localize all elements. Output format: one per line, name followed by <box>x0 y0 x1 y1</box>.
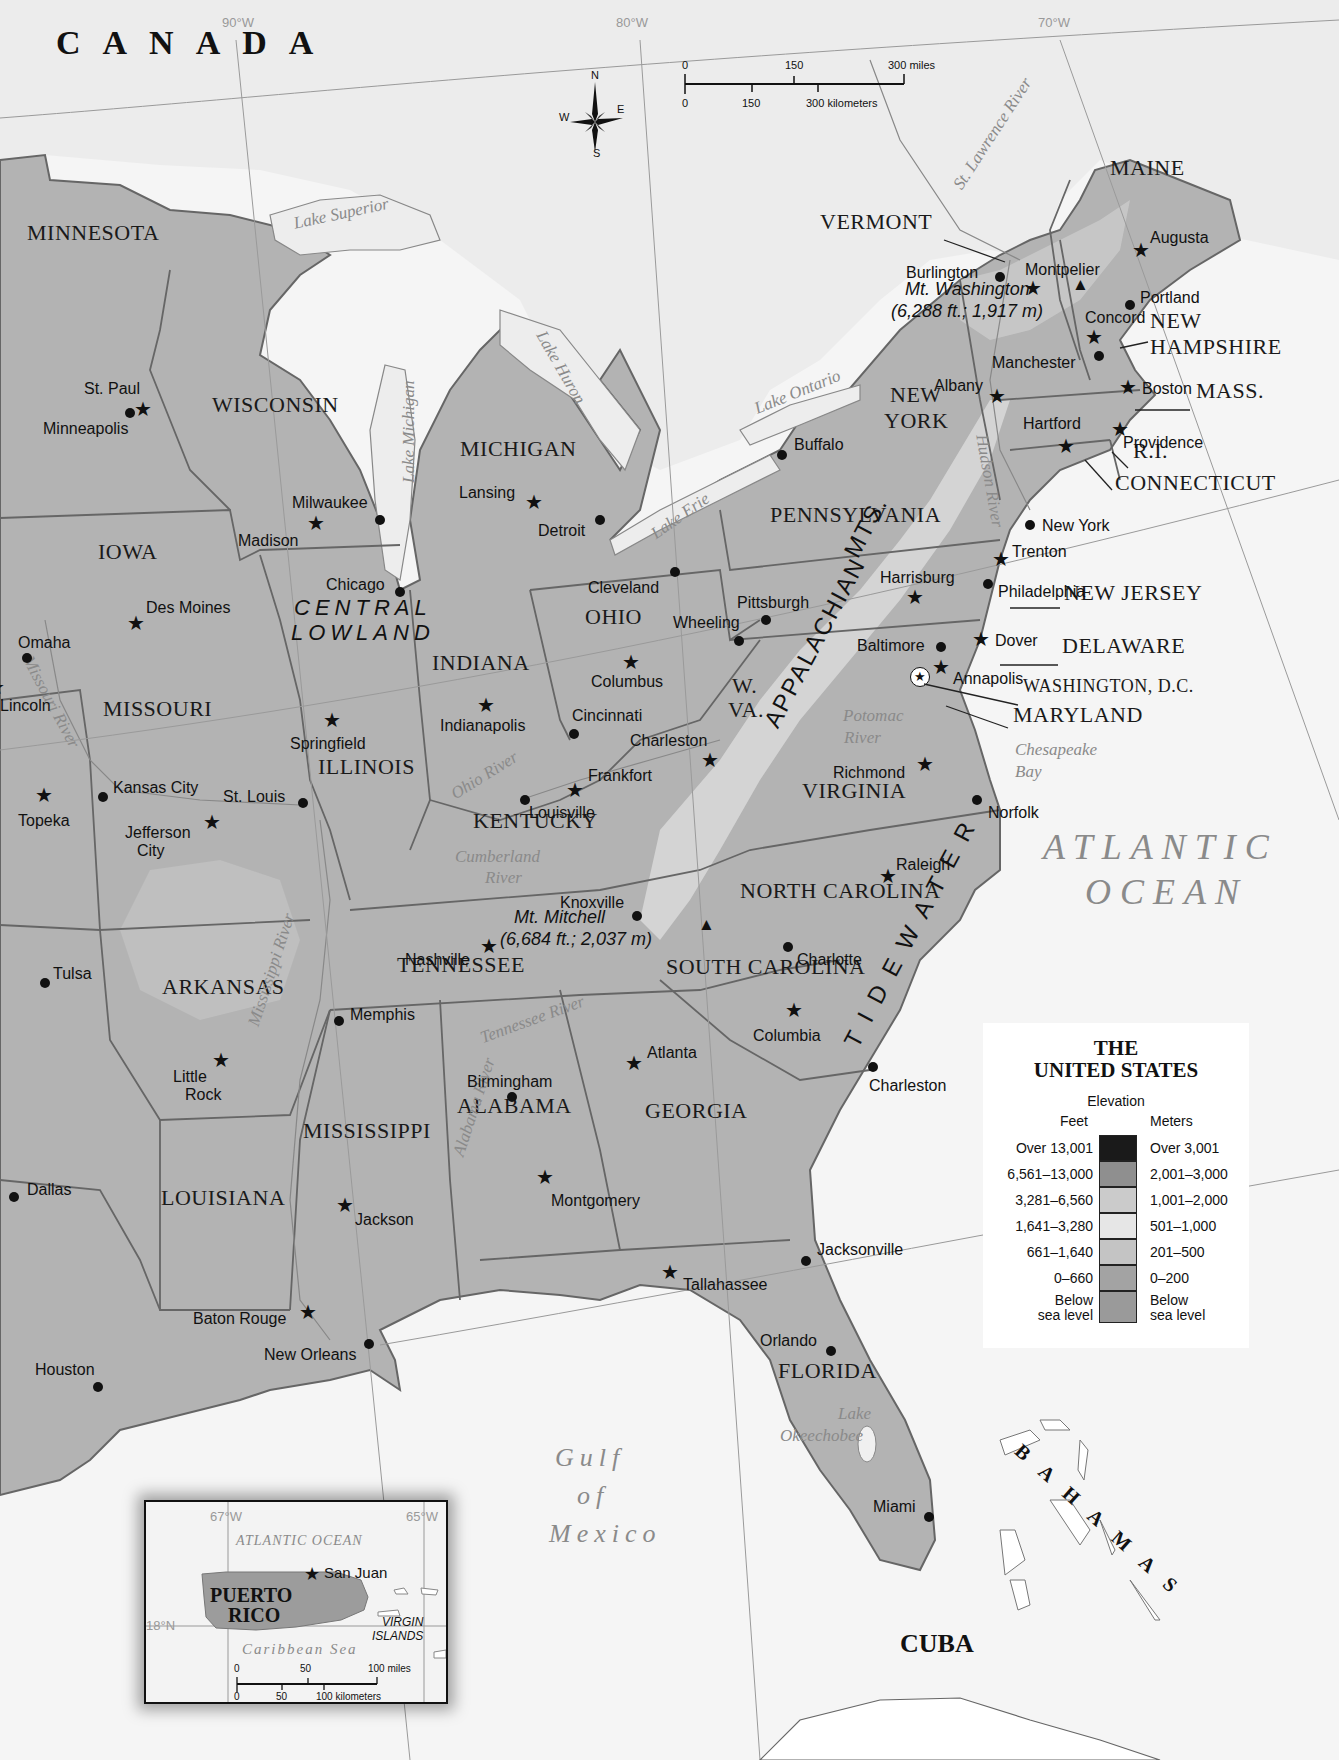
city-label-providence: Providence <box>1123 435 1203 451</box>
city-dot-icon <box>777 450 787 460</box>
water-label-okeechobee: Okeechobee <box>780 1427 863 1444</box>
city-label-jacksonville: Jacksonville <box>817 1242 903 1258</box>
inset-scale-km-50: 50 <box>276 1692 287 1702</box>
city-label-jackson: Jackson <box>355 1212 414 1228</box>
state-capital-star-icon: ★ <box>212 1050 230 1070</box>
region-label-lowland: LOWLAND <box>291 622 435 644</box>
state-capital-star-icon: ★ <box>307 513 325 533</box>
city-label-dover: Dover <box>995 633 1038 649</box>
city-dot-icon <box>1025 520 1035 530</box>
state-capital-star-icon: ★ <box>35 785 53 805</box>
state-capital-star-icon: ★ <box>480 936 498 956</box>
state-capital-star-icon: ★ <box>323 710 341 730</box>
legend-feet-header: Feet <box>1060 1113 1088 1129</box>
state-capital-star-icon: ★ <box>1057 436 1075 456</box>
state-label-w: W. <box>732 675 757 697</box>
city-label-st-louis: St. Louis <box>223 789 285 805</box>
legend-row: 1,641–3,280501–1,000 <box>983 1213 1249 1239</box>
legend-subtitle: Elevation <box>983 1093 1249 1109</box>
city-label-jefferson-city-line1: Jefferson <box>125 825 191 841</box>
city-label-manchester: Manchester <box>992 355 1076 371</box>
water-label-lake: Lake <box>838 1405 871 1422</box>
inset-atlantic-label: ATLANTIC OCEAN <box>236 1534 363 1548</box>
city-label-tallahassee: Tallahassee <box>683 1277 768 1293</box>
city-label-jefferson-city-line2: City <box>137 843 165 859</box>
legend-feet-value: 3,281–6,560 <box>1015 1192 1093 1208</box>
state-label-louisiana: LOUISIANA <box>161 1187 285 1209</box>
inset-virgin-islands-line1: VIRGIN <box>382 1616 423 1628</box>
mountain-peak-icon: ▲ <box>1072 276 1089 293</box>
legend-color-swatch <box>1099 1161 1137 1187</box>
legend-feet-value: 6,561–13,000 <box>1007 1166 1093 1182</box>
mountain-label-mt-washington: Mt. Washington <box>905 280 1030 298</box>
state-label-maine: MAINE <box>1110 157 1185 179</box>
city-dot-icon <box>801 1256 811 1266</box>
state-label-wisconsin: WISCONSIN <box>212 394 339 416</box>
city-label-montgomery: Montgomery <box>551 1193 640 1209</box>
state-capital-star-icon: ★ <box>299 1302 317 1322</box>
inset-caribbean-label: Caribbean Sea <box>242 1642 358 1657</box>
compass-e: E <box>617 104 624 115</box>
scale-miles-0: 0 <box>682 60 688 71</box>
city-label-concord: Concord <box>1085 310 1145 326</box>
region-label-central: CENTRAL <box>294 597 432 619</box>
city-label-frankfort: Frankfort <box>588 768 652 784</box>
city-label-norfolk: Norfolk <box>988 805 1039 821</box>
city-label-st-paul: St. Paul <box>84 381 140 397</box>
inset-scale-mi-100: 100 miles <box>368 1664 411 1674</box>
compass-n: N <box>591 70 599 81</box>
city-label-cincinnati: Cincinnati <box>572 708 642 724</box>
inset-scale-km-0: 0 <box>234 1692 240 1702</box>
city-label-boston: Boston <box>1142 381 1192 397</box>
state-capital-star-icon: ★ <box>879 866 897 886</box>
city-label-dallas: Dallas <box>27 1182 71 1198</box>
state-label-hampshire: HAMPSHIRE <box>1150 336 1282 358</box>
city-dot-icon <box>375 515 385 525</box>
legend-feet-value: 0–660 <box>1054 1270 1093 1286</box>
state-capital-star-icon: ★ <box>701 750 719 770</box>
state-capital-star-icon: ★ <box>1132 240 1150 260</box>
state-label-washington-d-c: WASHINGTON, D.C. <box>1023 677 1194 695</box>
city-dot-icon <box>40 978 50 988</box>
city-dot-icon <box>9 1192 19 1202</box>
city-dot-icon <box>670 567 680 577</box>
city-dot-icon <box>364 1339 374 1349</box>
ocean-label-atlantic: ATLANTIC <box>1043 829 1278 865</box>
city-label-portland: Portland <box>1140 290 1200 306</box>
compass-s: S <box>593 148 600 159</box>
state-capital-star-icon: ★ <box>203 812 221 832</box>
country-label-cuba: CUBA <box>900 1631 974 1657</box>
state-label-york: YORK <box>884 410 948 432</box>
city-label-harrisburg: Harrisburg <box>880 570 955 586</box>
city-dot-icon <box>98 792 108 802</box>
city-label-orlando: Orlando <box>760 1333 817 1349</box>
country-label-canada: CANADA <box>56 26 335 60</box>
state-label-north-carolina: NORTH CAROLINA <box>740 880 941 902</box>
city-label-kansas-city: Kansas City <box>113 780 198 796</box>
inset-lon-65: 65°W <box>406 1510 438 1523</box>
state-label-mass: MASS. <box>1196 380 1264 402</box>
city-label-birmingham: Birmingham <box>467 1074 552 1090</box>
water-label-bay: Bay <box>1015 763 1041 780</box>
city-label-charlotte: Charlotte <box>797 952 862 968</box>
legend-meters-value: 2,001–3,000 <box>1150 1166 1228 1182</box>
state-label-ohio: OHIO <box>585 606 642 628</box>
graticule-label-70-w: 70°W <box>1038 16 1070 29</box>
city-label-trenton: Trenton <box>1012 544 1067 560</box>
legend-color-swatch <box>1099 1187 1137 1213</box>
legend-color-swatch <box>1099 1239 1137 1265</box>
legend-row: Belowsea levelBelowsea level <box>983 1291 1249 1323</box>
legend-meters-value: 1,001–2,000 <box>1150 1192 1228 1208</box>
city-dot-icon <box>761 615 771 625</box>
legend-meters-value: 501–1,000 <box>1150 1218 1216 1234</box>
legend-meters-value: Belowsea level <box>1150 1293 1205 1322</box>
legend-feet-value: 661–1,640 <box>1027 1244 1093 1260</box>
city-label-charleston: Charleston <box>869 1078 946 1094</box>
water-label-lake-michigan: Lake Michigan <box>400 381 417 483</box>
inset-scale-km-100: 100 kilometers <box>316 1692 381 1702</box>
city-dot-icon <box>936 642 946 652</box>
inset-san-juan-label: San Juan <box>324 1565 387 1580</box>
city-dot-icon <box>22 653 32 663</box>
water-label-potomac: Potomac <box>843 707 903 724</box>
city-label-pittsburgh: Pittsburgh <box>737 595 809 611</box>
